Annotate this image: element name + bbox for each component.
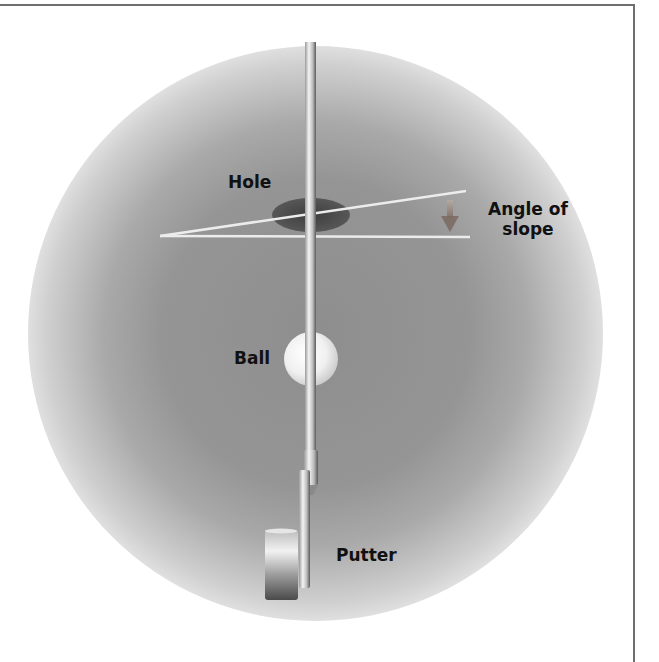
down-arrow-icon [441,200,459,232]
angle-label-line-1: Angle of [478,199,578,219]
golf-ball [284,330,338,390]
putter-label: Putter [336,545,397,565]
putter-shaft [299,42,318,588]
angle-of-slope-label: Angle of slope [478,199,578,239]
putter-head [265,529,298,601]
diagram-graphics [0,0,659,662]
angle-label-line-2: slope [478,219,578,239]
ball-label: Ball [234,348,270,368]
hole-label: Hole [228,172,271,192]
